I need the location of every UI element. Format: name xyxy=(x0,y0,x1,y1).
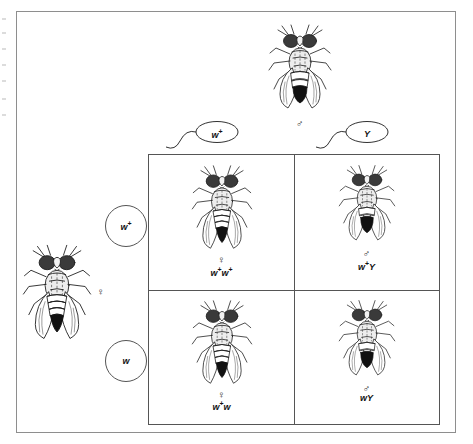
punnett-cell-bottom-right[interactable]: ♂ wY xyxy=(294,290,439,425)
parent-female-sex-symbol: ♀ xyxy=(97,286,105,297)
offspring-sex-symbol: ♂ xyxy=(358,249,375,260)
offspring-caption-bottom-right: ♂ wY xyxy=(360,384,373,405)
punnett-square-grid: ♀ w+w+ xyxy=(148,154,440,425)
fruit-fly-female-icon xyxy=(22,241,92,345)
punnett-square-figure: ♂ xyxy=(0,0,473,444)
fruit-fly-male-icon xyxy=(338,297,396,383)
offspring-caption-bottom-left: ♀ w+w xyxy=(212,390,230,414)
parent-female-fly xyxy=(22,241,92,345)
parent-male-sex-symbol: ♂ xyxy=(296,118,304,129)
offspring-caption-top-left: ♀ w+w+ xyxy=(210,255,232,279)
offspring-fly-top-right xyxy=(338,162,396,248)
paternal-gamete-wplus: w+ xyxy=(165,117,250,151)
fruit-fly-female-icon xyxy=(190,297,254,389)
offspring-fly-bottom-left xyxy=(190,297,254,389)
punnett-cell-top-left[interactable]: ♀ w+w+ xyxy=(149,155,294,290)
offspring-fly-bottom-right xyxy=(338,297,396,383)
maternal-gamete-wplus: w+ xyxy=(105,205,147,247)
paternal-gamete-y: Y xyxy=(315,117,400,151)
offspring-sex-symbol: ♀ xyxy=(212,390,230,401)
fruit-fly-male-icon xyxy=(268,21,332,117)
offspring-sex-symbol: ♀ xyxy=(210,255,232,266)
offspring-fly-top-left xyxy=(190,162,254,254)
parent-male-fly xyxy=(268,21,332,117)
fruit-fly-female-icon xyxy=(190,162,254,254)
offspring-genotype: w+w+ xyxy=(210,266,232,279)
offspring-caption-top-right: ♂ w+Y xyxy=(358,249,375,273)
punnett-cell-top-right[interactable]: ♂ w+Y xyxy=(294,155,439,290)
sperm-tail-icon xyxy=(165,117,250,151)
maternal-gamete-wplus-label: w+ xyxy=(120,220,131,232)
offspring-genotype: wY xyxy=(360,394,373,404)
maternal-gamete-w: w xyxy=(105,340,147,382)
offspring-genotype: w+w xyxy=(212,400,230,413)
offspring-genotype: w+Y xyxy=(358,260,375,273)
sperm-tail-icon xyxy=(315,117,400,151)
page-margin-marks xyxy=(0,18,12,128)
punnett-cell-bottom-left[interactable]: ♀ w+w xyxy=(149,290,294,425)
fruit-fly-male-icon xyxy=(338,162,396,248)
maternal-gamete-w-label: w xyxy=(122,356,129,366)
